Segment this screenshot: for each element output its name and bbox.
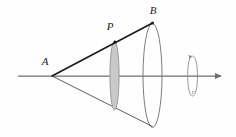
- cone-of-revolution-diagram: A P B r: [0, 0, 236, 137]
- label-point-B: B: [150, 4, 157, 16]
- point-marker-P: [114, 41, 117, 44]
- geometry-figure-container: A P B r: [0, 0, 236, 137]
- label-rotation-r: r: [192, 88, 195, 96]
- label-point-P: P: [106, 20, 114, 32]
- label-point-A: A: [41, 55, 49, 67]
- point-marker-B: [151, 22, 154, 25]
- cross-section-disc-ellipse: [110, 41, 119, 110]
